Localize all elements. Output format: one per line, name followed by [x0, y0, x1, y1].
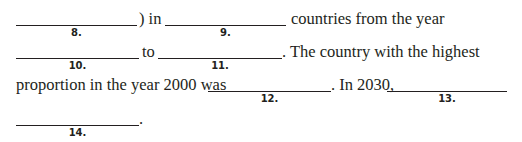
blank-label-12: 12. [208, 93, 331, 105]
blank-9[interactable] [165, 25, 286, 26]
blank-12[interactable] [208, 91, 331, 92]
blank-label-13: 13. [387, 93, 507, 105]
blank-label-11: 11. [158, 60, 282, 72]
text-in: ) in [139, 9, 161, 29]
blank-label-10: 10. [16, 60, 139, 72]
text-period: . [139, 109, 143, 129]
blank-label-8: 8. [16, 27, 137, 39]
blank-13[interactable] [387, 91, 507, 92]
text-proportion-2000: proportion in the year 2000 was [16, 75, 226, 95]
blank-label-9: 9. [165, 27, 286, 39]
text-in-2030: . In 2030, [331, 75, 394, 95]
blank-11[interactable] [158, 58, 282, 59]
text-to: to [142, 42, 155, 62]
blank-14[interactable] [16, 125, 139, 126]
text-countries-from-year: countries from the year [291, 9, 444, 29]
blank-8[interactable] [16, 25, 137, 26]
blank-label-14: 14. [16, 127, 139, 139]
blank-10[interactable] [16, 58, 139, 59]
text-country-highest: . The country with the highest [282, 42, 480, 62]
